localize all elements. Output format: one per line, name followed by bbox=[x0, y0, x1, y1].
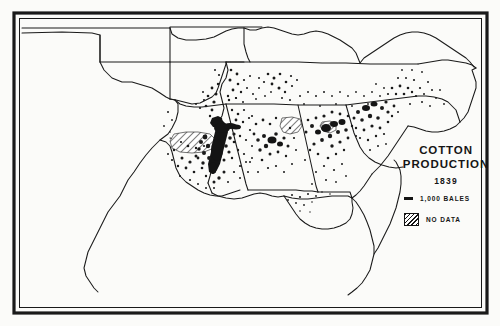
nodata-region-alabama bbox=[280, 117, 302, 134]
cotton-production-map bbox=[0, 0, 500, 326]
map-page: COTTON PRODUCTION 1839 1,000 BALES NO DA… bbox=[0, 0, 500, 326]
nodata-region-louisiana bbox=[170, 132, 216, 153]
